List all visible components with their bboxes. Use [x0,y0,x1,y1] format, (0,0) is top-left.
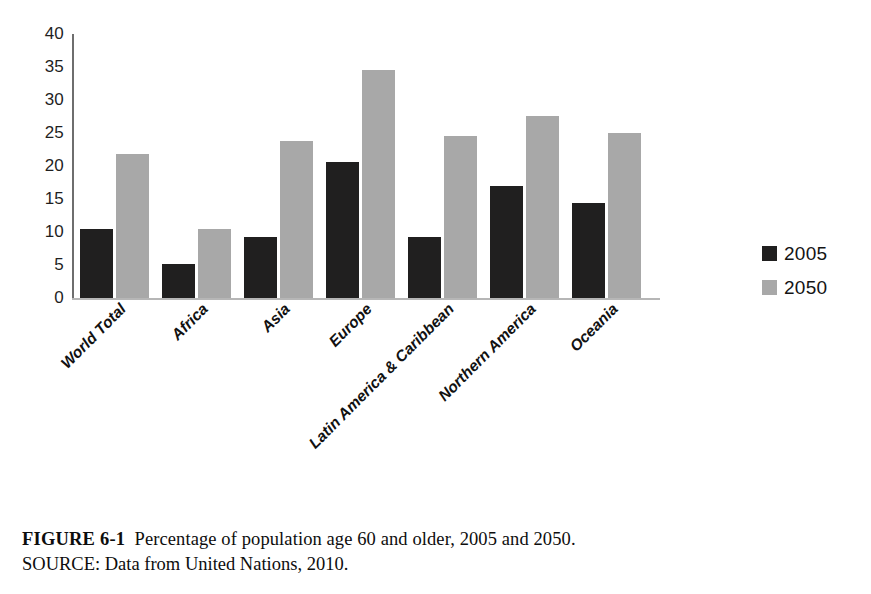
legend-item: 2005 [762,236,862,270]
y-axis-tick-label: 35 [24,58,64,75]
y-axis-tick-label: 30 [24,91,64,108]
bar-2005 [244,237,277,298]
y-axis-tick-label: 40 [24,25,64,42]
bar-2005 [572,203,605,298]
bar-2005 [408,237,441,298]
legend-item: 2050 [762,270,862,304]
y-axis-tick-label: 20 [24,157,64,174]
y-axis-tick-label: 0 [24,289,64,306]
figure-container: 4035302520151050 World TotalAfricaAsiaEu… [0,0,871,594]
bar-2005 [490,186,523,298]
y-axis-tick-label: 15 [24,190,64,207]
bar-2050 [608,133,641,298]
legend-label: 2005 [784,244,827,263]
chart-legend: 20052050 [762,236,862,304]
bar-group [572,34,646,298]
bar-2050 [280,141,313,298]
bar-group [80,34,154,298]
y-axis-tick-label: 25 [24,124,64,141]
bar-group [326,34,400,298]
bar-2050 [444,136,477,298]
bar-2050 [362,70,395,298]
y-axis-tick-label: 5 [24,256,64,273]
bar-2005 [80,229,113,298]
bar-2005 [326,162,359,298]
bar-group [408,34,482,298]
bar-2050 [198,229,231,298]
bar-2005 [162,264,195,298]
bar-2050 [526,116,559,298]
legend-label: 2050 [784,278,827,297]
bar-group [490,34,564,298]
bar-plot-area [74,34,660,298]
y-axis-tick-label: 10 [24,223,64,240]
figure-caption: FIGURE 6-1 Percentage of population age … [22,527,842,577]
figure-number: FIGURE 6-1 [22,529,125,549]
legend-swatch-icon [762,280,777,295]
bar-group [162,34,236,298]
figure-description: Percentage of population age 60 and olde… [135,529,576,549]
y-axis-tick-labels: 4035302520151050 [18,34,64,299]
x-axis-category-labels: World TotalAfricaAsiaEuropeLatin America… [74,300,674,430]
bar-group [244,34,318,298]
bar-2050 [116,154,149,298]
figure-source: SOURCE: Data from United Nations, 2010. [22,552,842,577]
legend-swatch-icon [762,246,777,261]
